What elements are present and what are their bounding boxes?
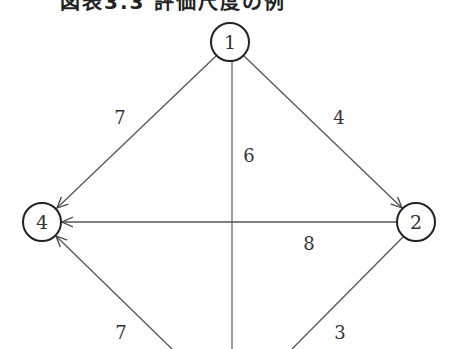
node-1-label: 1: [224, 31, 236, 53]
edge-weight-1-4: 7: [114, 107, 125, 128]
node-2: 2: [397, 203, 435, 241]
edge-weight-3-4: 7: [115, 322, 126, 343]
edge-weight-1-3: 6: [243, 145, 254, 166]
edge-3-to-4: [56, 236, 172, 349]
node-4: 4: [23, 203, 61, 241]
node-1: 1: [211, 23, 249, 61]
edge-weight-1-2: 4: [333, 107, 344, 128]
edge-1-to-2: [244, 56, 402, 208]
graph-diagram: 1 4 2 7 4 6 8 7 3: [0, 0, 454, 349]
edge-weight-2-3: 3: [334, 322, 345, 343]
node-2-label: 2: [410, 211, 422, 233]
node-4-label: 4: [36, 211, 48, 233]
edge-weight-2-4: 8: [303, 233, 314, 254]
edge-1-to-4: [57, 56, 216, 208]
